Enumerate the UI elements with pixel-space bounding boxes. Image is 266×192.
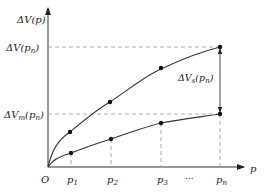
origin-label: O [41,174,49,185]
x-tick-p1: p1 [67,174,78,187]
delta-vs-annotation: ΔVs(pn) [177,72,214,85]
dashed-guides [48,47,220,167]
x-tick-p3: p3 [157,174,168,187]
y-tick-delta-vm-pn: ΔVm(pn) [3,109,44,122]
y-tick-delta-v-pn: ΔV(pn) [5,42,39,55]
x-tick-p2: p2 [107,174,118,187]
y-axis-label: ΔV(p) [16,14,46,25]
lower-curve [48,114,220,167]
x-axis-label: p [250,163,257,174]
data-points [68,45,222,155]
upper-curve [48,47,220,167]
diagram-canvas: ΔV(p) ΔV(pn) ΔVm(pn) ΔVs(pn) O p p1 p2 p… [0,0,266,192]
x-tick-pn: pn [216,174,227,187]
x-tick-ellipsis: ··· [185,174,194,184]
